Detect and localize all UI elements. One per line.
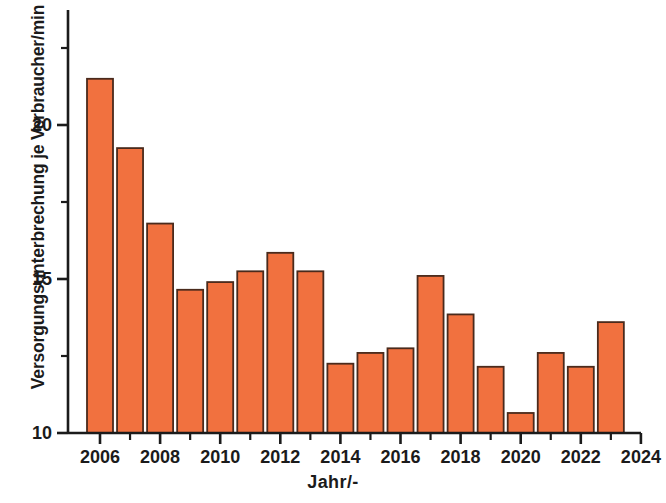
bar: [237, 271, 263, 433]
bar: [478, 367, 504, 433]
y-tick-label: 10: [12, 423, 52, 444]
x-tick-label: 2012: [260, 447, 300, 468]
bar: [388, 348, 414, 433]
bar-series: [87, 79, 624, 433]
bar: [267, 253, 293, 433]
bar: [568, 367, 594, 433]
x-tick-label: 2024: [621, 447, 661, 468]
x-tick-label: 2022: [561, 447, 601, 468]
x-axis-ticks: [100, 433, 641, 444]
y-axis-ticks: [57, 48, 68, 433]
x-tick-label: 2016: [380, 447, 420, 468]
bar: [207, 282, 233, 433]
bar: [508, 413, 534, 433]
x-tick-label: 2014: [320, 447, 360, 468]
x-tick-label: 2020: [501, 447, 541, 468]
bar: [327, 364, 353, 433]
bar: [297, 271, 323, 433]
bar: [177, 290, 203, 433]
bar: [357, 353, 383, 433]
bar: [87, 79, 113, 433]
x-tick-label: 2010: [200, 447, 240, 468]
bar: [147, 224, 173, 433]
y-tick-label: 20: [12, 115, 52, 136]
bar: [448, 314, 474, 433]
bar: [538, 353, 564, 433]
bar: [598, 322, 624, 433]
bar: [117, 148, 143, 433]
y-tick-label: 15: [12, 269, 52, 290]
bar-chart: Versorgungsunterbrechung je Verbraucher/…: [0, 0, 666, 503]
plot-area: [0, 0, 666, 503]
x-tick-label: 2018: [441, 447, 481, 468]
x-tick-label: 2008: [140, 447, 180, 468]
bar: [418, 276, 444, 433]
x-tick-label: 2006: [80, 447, 120, 468]
